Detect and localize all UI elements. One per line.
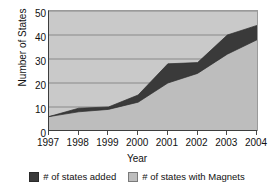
x-tick <box>78 131 79 135</box>
x-tick <box>137 131 138 135</box>
x-tick-label: 1998 <box>67 137 89 148</box>
x-tick <box>48 131 49 135</box>
y-axis-tick-labels: 50 40 30 20 10 0 <box>22 4 46 134</box>
legend-item-states-added: # of states added <box>29 172 116 182</box>
x-tick-label: 2004 <box>245 137 267 148</box>
x-tick <box>167 131 168 135</box>
x-axis-ticks <box>48 131 257 136</box>
y-tick-label: 20 <box>35 81 46 91</box>
x-tick-label: 2000 <box>126 137 148 148</box>
x-tick <box>226 131 227 135</box>
chart-legend: # of states added # of states with Magne… <box>0 172 274 182</box>
y-tick-label: 40 <box>35 33 46 43</box>
legend-label: # of states added <box>43 172 116 182</box>
x-tick-label: 1997 <box>37 137 59 148</box>
x-tick-label: 2001 <box>156 137 178 148</box>
x-tick <box>107 131 108 135</box>
dark-square-swatch-icon <box>29 172 39 182</box>
x-tick-label: 1999 <box>96 137 118 148</box>
legend-item-states-with-magnets: # of states with Magnets <box>128 172 244 182</box>
x-tick-label: 2003 <box>215 137 237 148</box>
x-tick-label: 2002 <box>185 137 207 148</box>
x-tick <box>197 131 198 135</box>
light-square-swatch-icon <box>128 172 138 182</box>
y-tick-label: 50 <box>35 9 46 19</box>
legend-label: # of states with Magnets <box>142 172 244 182</box>
y-tick-label: 30 <box>35 57 46 67</box>
x-axis-title: Year <box>0 153 274 164</box>
y-tick-label: 10 <box>35 105 46 115</box>
chart-canvas <box>49 11 257 131</box>
x-tick <box>256 131 257 135</box>
plot-area <box>48 10 258 131</box>
chart-figure: Number of States 50 40 30 20 10 0 199719… <box>0 0 274 194</box>
x-axis-tick-labels: 19971998199920002001200220032004 <box>48 137 257 151</box>
